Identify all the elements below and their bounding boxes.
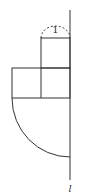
axis-label: l [68, 183, 71, 194]
top-square [41, 38, 70, 68]
arc-label: 1 [52, 24, 58, 35]
quarter-circle-arc [12, 98, 70, 157]
geometry-diagram: 1 l [0, 0, 85, 195]
